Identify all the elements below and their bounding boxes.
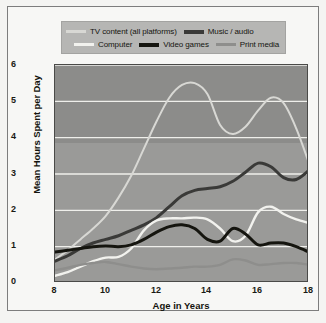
legend-label-tv: TV content (all platforms) xyxy=(90,26,177,37)
legend-item-videogames[interactable]: Video games xyxy=(139,39,208,50)
x-tick-14: 14 xyxy=(198,285,214,295)
plot-area xyxy=(54,64,308,282)
legend-row-2: Computer Video games Print media xyxy=(66,38,281,51)
x-tick-8: 8 xyxy=(46,285,62,295)
y-tick-5: 5 xyxy=(4,95,16,105)
x-tick-18: 18 xyxy=(300,285,316,295)
legend-swatch-computer xyxy=(74,43,94,46)
legend-item-music[interactable]: Music / audio xyxy=(184,26,254,37)
legend-label-computer: Computer xyxy=(98,39,132,50)
legend-row-1: TV content (all platforms) Music / audio xyxy=(66,25,281,38)
y-tick-1: 1 xyxy=(4,240,16,250)
series-line-tv-content-all-platforms xyxy=(55,82,308,259)
legend-item-computer[interactable]: Computer xyxy=(74,39,132,50)
x-tick-16: 16 xyxy=(249,285,265,295)
y-tick-3: 3 xyxy=(4,168,16,178)
legend-label-print: Print media xyxy=(240,39,279,50)
legend-swatch-print xyxy=(216,43,236,46)
legend-item-print[interactable]: Print media xyxy=(216,39,279,50)
y-tick-4: 4 xyxy=(4,131,16,141)
x-tick-10: 10 xyxy=(97,285,113,295)
y-tick-0: 0 xyxy=(4,276,16,286)
y-tick-2: 2 xyxy=(4,204,16,214)
x-axis-label: Age in Years xyxy=(54,300,308,311)
chart-legend: TV content (all platforms) Music / audio… xyxy=(61,21,286,54)
legend-swatch-music xyxy=(184,30,204,34)
legend-item-tv[interactable]: TV content (all platforms) xyxy=(66,26,177,37)
chart-figure: TV content (all platforms) Music / audio… xyxy=(0,0,326,323)
legend-swatch-videogames xyxy=(139,43,159,47)
legend-label-videogames: Video games xyxy=(163,39,208,50)
chart-canvas xyxy=(55,65,308,282)
y-tick-6: 6 xyxy=(4,59,16,69)
x-tick-12: 12 xyxy=(148,285,164,295)
legend-label-music: Music / audio xyxy=(208,26,254,37)
y-axis-label: Mean Hours Spent per Day xyxy=(31,45,42,225)
legend-swatch-tv xyxy=(66,30,86,33)
chart-frame: TV content (all platforms) Music / audio… xyxy=(7,6,319,311)
